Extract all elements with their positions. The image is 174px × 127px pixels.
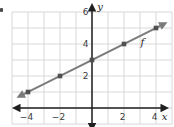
data-point-marker bbox=[122, 42, 127, 47]
y-tick-label: 2 bbox=[83, 71, 89, 81]
data-point-marker bbox=[90, 58, 95, 63]
x-axis-label: x bbox=[162, 111, 168, 122]
y-tick-label: 4 bbox=[83, 39, 89, 49]
y-tick-label: 6 bbox=[83, 7, 89, 17]
y-axis-label: y bbox=[96, 1, 103, 12]
x-tick-label: −4 bbox=[20, 112, 34, 122]
coordinate-plane: −4−224246xyf bbox=[0, 0, 174, 127]
function-f-label: f bbox=[139, 36, 146, 48]
graph-figure: −4−224246xyf bbox=[0, 0, 174, 127]
x-tick-label: 2 bbox=[120, 112, 126, 122]
x-tick-label: 4 bbox=[152, 112, 158, 122]
x-tick-label: −2 bbox=[52, 112, 65, 122]
data-point-marker bbox=[154, 26, 159, 31]
data-point-marker bbox=[26, 90, 31, 95]
data-point-marker bbox=[58, 74, 63, 79]
